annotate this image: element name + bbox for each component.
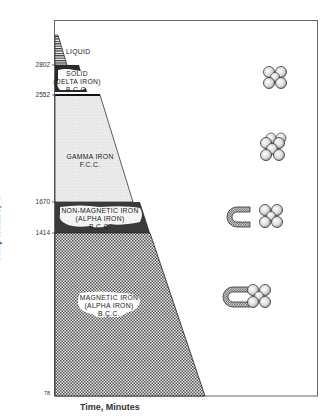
delta-label: SOLID (DELTA IRON) B.C.C. [52, 70, 102, 94]
iron-phase-diagram: 2802 2552 1670 1414 78 LIQUID SOLID (DEL… [0, 0, 327, 419]
y-tick-1414: 1414 [18, 229, 50, 236]
y-tick-78: 78 [18, 390, 50, 396]
liquid-label: LIQUID [66, 48, 90, 56]
delta-label-line-2: (DELTA IRON) [52, 78, 102, 86]
gamma-label-line-2: F.C.C. [55, 161, 125, 169]
gamma-iron-region [55, 95, 133, 202]
magnetic-label-line-1: MAGNETIC IRON [75, 294, 143, 302]
delta-label-line-3: B.C.C. [52, 86, 102, 94]
gamma-label-line-1: GAMMA IRON [55, 153, 125, 161]
y-tick-2802: 2802 [18, 61, 50, 68]
y-tick-2552: 2552 [18, 91, 50, 98]
x-axis-label: Time, Minutes [80, 402, 140, 412]
magnet-away-bcc-cluster-icon [227, 205, 283, 228]
magnetic-label: MAGNETIC IRON (ALPHA IRON) B.C.C. [75, 294, 143, 318]
magnetic-label-line-3: B.C.C. [75, 310, 143, 318]
non-magnetic-label-line-3: B.C.C. [55, 223, 145, 231]
non-magnetic-label-line-2: (ALPHA IRON) [55, 215, 145, 223]
magnetic-label-line-2: (ALPHA IRON) [75, 302, 143, 310]
delta-label-line-1: SOLID [52, 70, 102, 78]
non-magnetic-label-line-1: NON-MAGNETIC IRON [55, 207, 145, 215]
bcc-atom-cluster-delta-icon [264, 67, 287, 89]
non-magnetic-label: NON-MAGNETIC IRON (ALPHA IRON) B.C.C. [55, 207, 145, 231]
liquid-label-line: LIQUID [66, 48, 90, 56]
gamma-label: GAMMA IRON F.C.C. [55, 153, 125, 169]
magnet-attached-bcc-cluster-icon [223, 285, 271, 308]
y-axis-label: Temperature, °F [0, 194, 2, 262]
y-tick-1670: 1670 [18, 198, 50, 205]
fcc-atom-cluster-gamma-icon [261, 133, 287, 161]
